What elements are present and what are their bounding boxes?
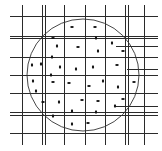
colony-dot [97,49,99,53]
colony-dot [86,122,90,124]
colony-dot [121,98,125,100]
colony-dot [32,79,34,83]
grid-plate-diagram [0,0,162,151]
colony-dot [80,99,84,101]
colony-dot [70,26,74,28]
colony-dot [132,81,136,83]
colony-dot [50,73,52,77]
colony-dot [51,81,55,83]
colony-dot [59,65,61,69]
colony-dot [52,114,54,118]
colony-dot [117,85,119,89]
colony-dot [31,63,33,67]
colony-dot [96,100,100,102]
colony-dot [35,89,37,93]
colony-dot [115,64,119,66]
colony-dot [41,101,45,103]
colony-dot [51,55,53,59]
colony-dot [95,36,97,40]
colony-dot [121,50,125,52]
colony-dot [40,62,42,66]
colony-dot [71,122,73,126]
colony-dot [92,65,94,69]
colony-dot [58,100,60,104]
colony-dot [87,85,91,87]
colony-dot [75,67,77,71]
colony-dot [51,37,55,39]
colony-dot [111,41,113,45]
colony-dot [93,26,97,28]
colony-dot [114,104,116,108]
colony-dot [56,44,58,48]
colony-dot [71,109,73,113]
colony-dot [67,82,71,84]
colony-dot [95,110,97,114]
colony-dot [102,79,104,83]
colony-dot [76,46,80,48]
